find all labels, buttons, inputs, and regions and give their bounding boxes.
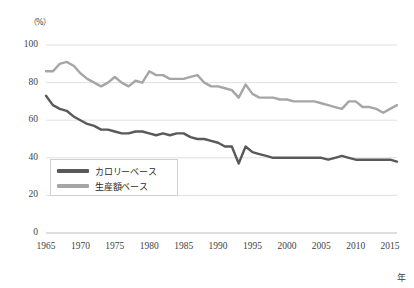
y-axis-tick-label: 80	[8, 77, 38, 87]
y-axis-tick-label: 40	[8, 152, 38, 162]
y-axis-tick-label: 20	[8, 189, 38, 199]
food-self-sufficiency-line-chart: （%） 020406080100 19651970197519801985199…	[0, 0, 414, 288]
series-lines	[46, 62, 397, 164]
gridlines	[46, 45, 397, 233]
y-axis-tick-label: 100	[8, 39, 38, 49]
legend-swatch-production-value-base	[57, 184, 89, 188]
legend-label-production-value-base: 生産額ベース	[95, 180, 148, 193]
legend-item-production-value-base: 生産額ベース	[57, 179, 148, 193]
y-axis-tick-label: 60	[8, 114, 38, 124]
legend-swatch-calorie-base	[57, 169, 89, 173]
x-axis-unit-label: 年	[397, 271, 406, 284]
legend: カロリーベース 生産額ベース	[50, 159, 178, 196]
series-line	[46, 62, 397, 113]
legend-item-calorie-base: カロリーベース	[57, 164, 157, 178]
legend-label-calorie-base: カロリーベース	[95, 165, 157, 178]
y-axis-tick-label: 0	[8, 227, 38, 237]
x-axis-tick-label: 2015	[370, 241, 410, 251]
